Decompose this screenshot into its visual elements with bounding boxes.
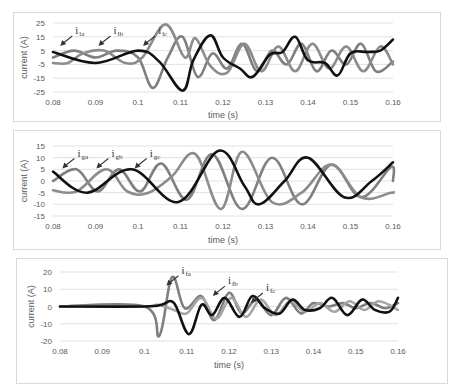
annotation-label: i (266, 281, 269, 293)
x-tick-label: 0.16 (385, 222, 401, 231)
annotation-subscript: ga (81, 153, 89, 161)
x-tick-label: 0.09 (94, 347, 110, 356)
y-tick-label: -5 (38, 60, 46, 69)
x-tick-label: 0.14 (300, 98, 316, 107)
y-tick-label: 15 (36, 33, 45, 42)
x-tick-label: 0.08 (52, 347, 68, 356)
annotation-i-fa: ifa (166, 264, 191, 286)
x-tick-label: 0.14 (300, 222, 316, 231)
chart-2: 151050-5-10-150.080.090.10.110.120.130.1… (19, 142, 401, 245)
y-tick-label: -15 (33, 74, 45, 83)
y-tick-label: -5 (38, 189, 46, 198)
x-tick-label: 0.11 (179, 347, 195, 356)
y-tick-label: 10 (36, 154, 45, 163)
y-tick-label: -25 (33, 88, 45, 97)
x-tick-label: 0.11 (173, 222, 189, 231)
y-tick-label: 5 (41, 47, 46, 56)
chart-1: 25155-5-15-250.080.090.10.110.120.130.14… (19, 19, 401, 120)
annotation-subscript: gb (115, 153, 123, 161)
x-tick-label: 0.1 (132, 98, 144, 107)
x-tick-label: 0.16 (390, 347, 406, 356)
y-axis-title: current (A) (19, 36, 29, 79)
x-tick-label: 0.08 (45, 222, 61, 231)
x-tick-label: 0.13 (258, 98, 274, 107)
x-tick-label: 0.14 (306, 347, 322, 356)
annotation-label: i (228, 274, 231, 286)
annotation-label: i (181, 264, 184, 276)
y-axis-title: current (A) (19, 160, 29, 203)
annotation-subscript: fb (232, 280, 238, 288)
chart-3: 20100-10-200.080.090.10.110.120.130.140.… (26, 264, 406, 370)
x-tick-label: 0.08 (45, 98, 61, 107)
annotation-subscript: fa (185, 270, 191, 278)
x-axis-title: time (s) (208, 110, 238, 120)
annotation-label: i (150, 147, 153, 159)
x-tick-label: 0.15 (343, 222, 359, 231)
x-tick-label: 0.12 (215, 98, 231, 107)
annotation-label: i (77, 147, 80, 159)
annotation-subscript: lc (162, 30, 167, 38)
annotation-label: i (111, 147, 114, 159)
annotation-subscript: la (79, 30, 85, 38)
y-tick-label: 5 (41, 165, 46, 174)
annotation-label: i (158, 24, 161, 36)
y-tick-label: -20 (40, 337, 52, 346)
x-tick-label: 0.09 (88, 98, 104, 107)
y-tick-label: 10 (43, 285, 52, 294)
x-tick-label: 0.1 (139, 347, 151, 356)
x-tick-label: 0.09 (88, 222, 104, 231)
x-tick-label: 0.12 (215, 222, 231, 231)
annotation-subscript: lb (118, 30, 124, 38)
y-tick-label: 0 (48, 303, 53, 312)
x-tick-label: 0.13 (258, 222, 274, 231)
annotation-subscript: gc (154, 153, 161, 161)
x-tick-label: 0.13 (263, 347, 279, 356)
x-tick-label: 0.16 (385, 98, 401, 107)
y-tick-label: -15 (33, 212, 45, 221)
charts-canvas: 25155-5-15-250.080.090.10.110.120.130.14… (0, 0, 460, 390)
x-axis-title: time (s) (214, 360, 244, 370)
series-line-i-gc (53, 150, 393, 204)
y-tick-label: -10 (40, 320, 52, 329)
x-tick-label: 0.15 (348, 347, 364, 356)
x-tick-label: 0.1 (132, 222, 144, 231)
y-tick-label: 25 (36, 19, 45, 28)
annotation-label: i (75, 24, 78, 36)
x-axis-title: time (s) (208, 235, 238, 245)
x-tick-label: 0.12 (221, 347, 237, 356)
annotation-i-lb: ilb (99, 24, 124, 46)
y-tick-label: -10 (33, 200, 45, 209)
annotation-subscript: fc (270, 287, 275, 295)
y-tick-label: 15 (36, 142, 45, 151)
x-tick-label: 0.15 (343, 98, 359, 107)
annotation-i-la: ila (60, 24, 85, 46)
y-tick-label: 20 (43, 268, 52, 277)
x-tick-label: 0.11 (173, 98, 189, 107)
y-tick-label: 0 (41, 177, 46, 186)
annotation-i-fb: ifb (213, 274, 238, 296)
series-line-i-gb (53, 152, 394, 209)
y-axis-title: current (A) (26, 285, 36, 328)
annotation-label: i (114, 24, 117, 36)
